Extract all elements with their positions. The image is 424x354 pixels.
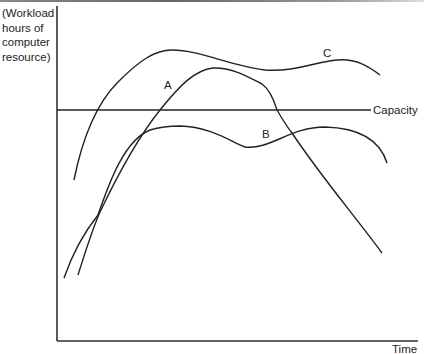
capacity-label: Capacity (373, 104, 418, 116)
curve-b-label: B (262, 128, 270, 140)
curve-b (64, 126, 387, 278)
curve-a-label: A (164, 79, 172, 91)
chart-plot: Capacity C A B Time (0, 0, 424, 354)
curve-a (78, 68, 382, 275)
curve-c-label: C (323, 47, 331, 59)
x-axis-label: Time (392, 343, 417, 354)
